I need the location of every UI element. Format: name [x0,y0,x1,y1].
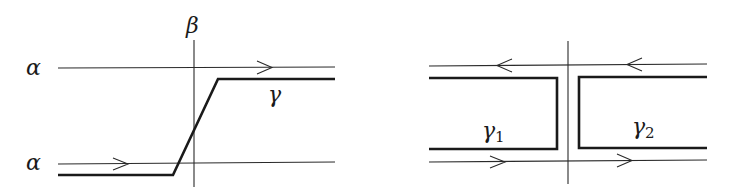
gamma-curve [58,79,335,175]
gamma2-label: γ2 [632,114,655,142]
gamma-label: γ [268,82,282,107]
alpha-bottom-line [58,162,335,164]
left-diagram: β α α γ [26,13,335,187]
alpha-top-label: α [26,55,41,80]
right-diagram: γ1 γ2 [429,41,707,184]
alpha-top-line [58,67,335,68]
beta-label: β [185,13,199,38]
diagram-canvas: β α α γ γ1 γ2 [0,0,735,195]
alpha-bottom-label: α [26,150,41,175]
gamma1-label: γ1 [482,118,505,146]
